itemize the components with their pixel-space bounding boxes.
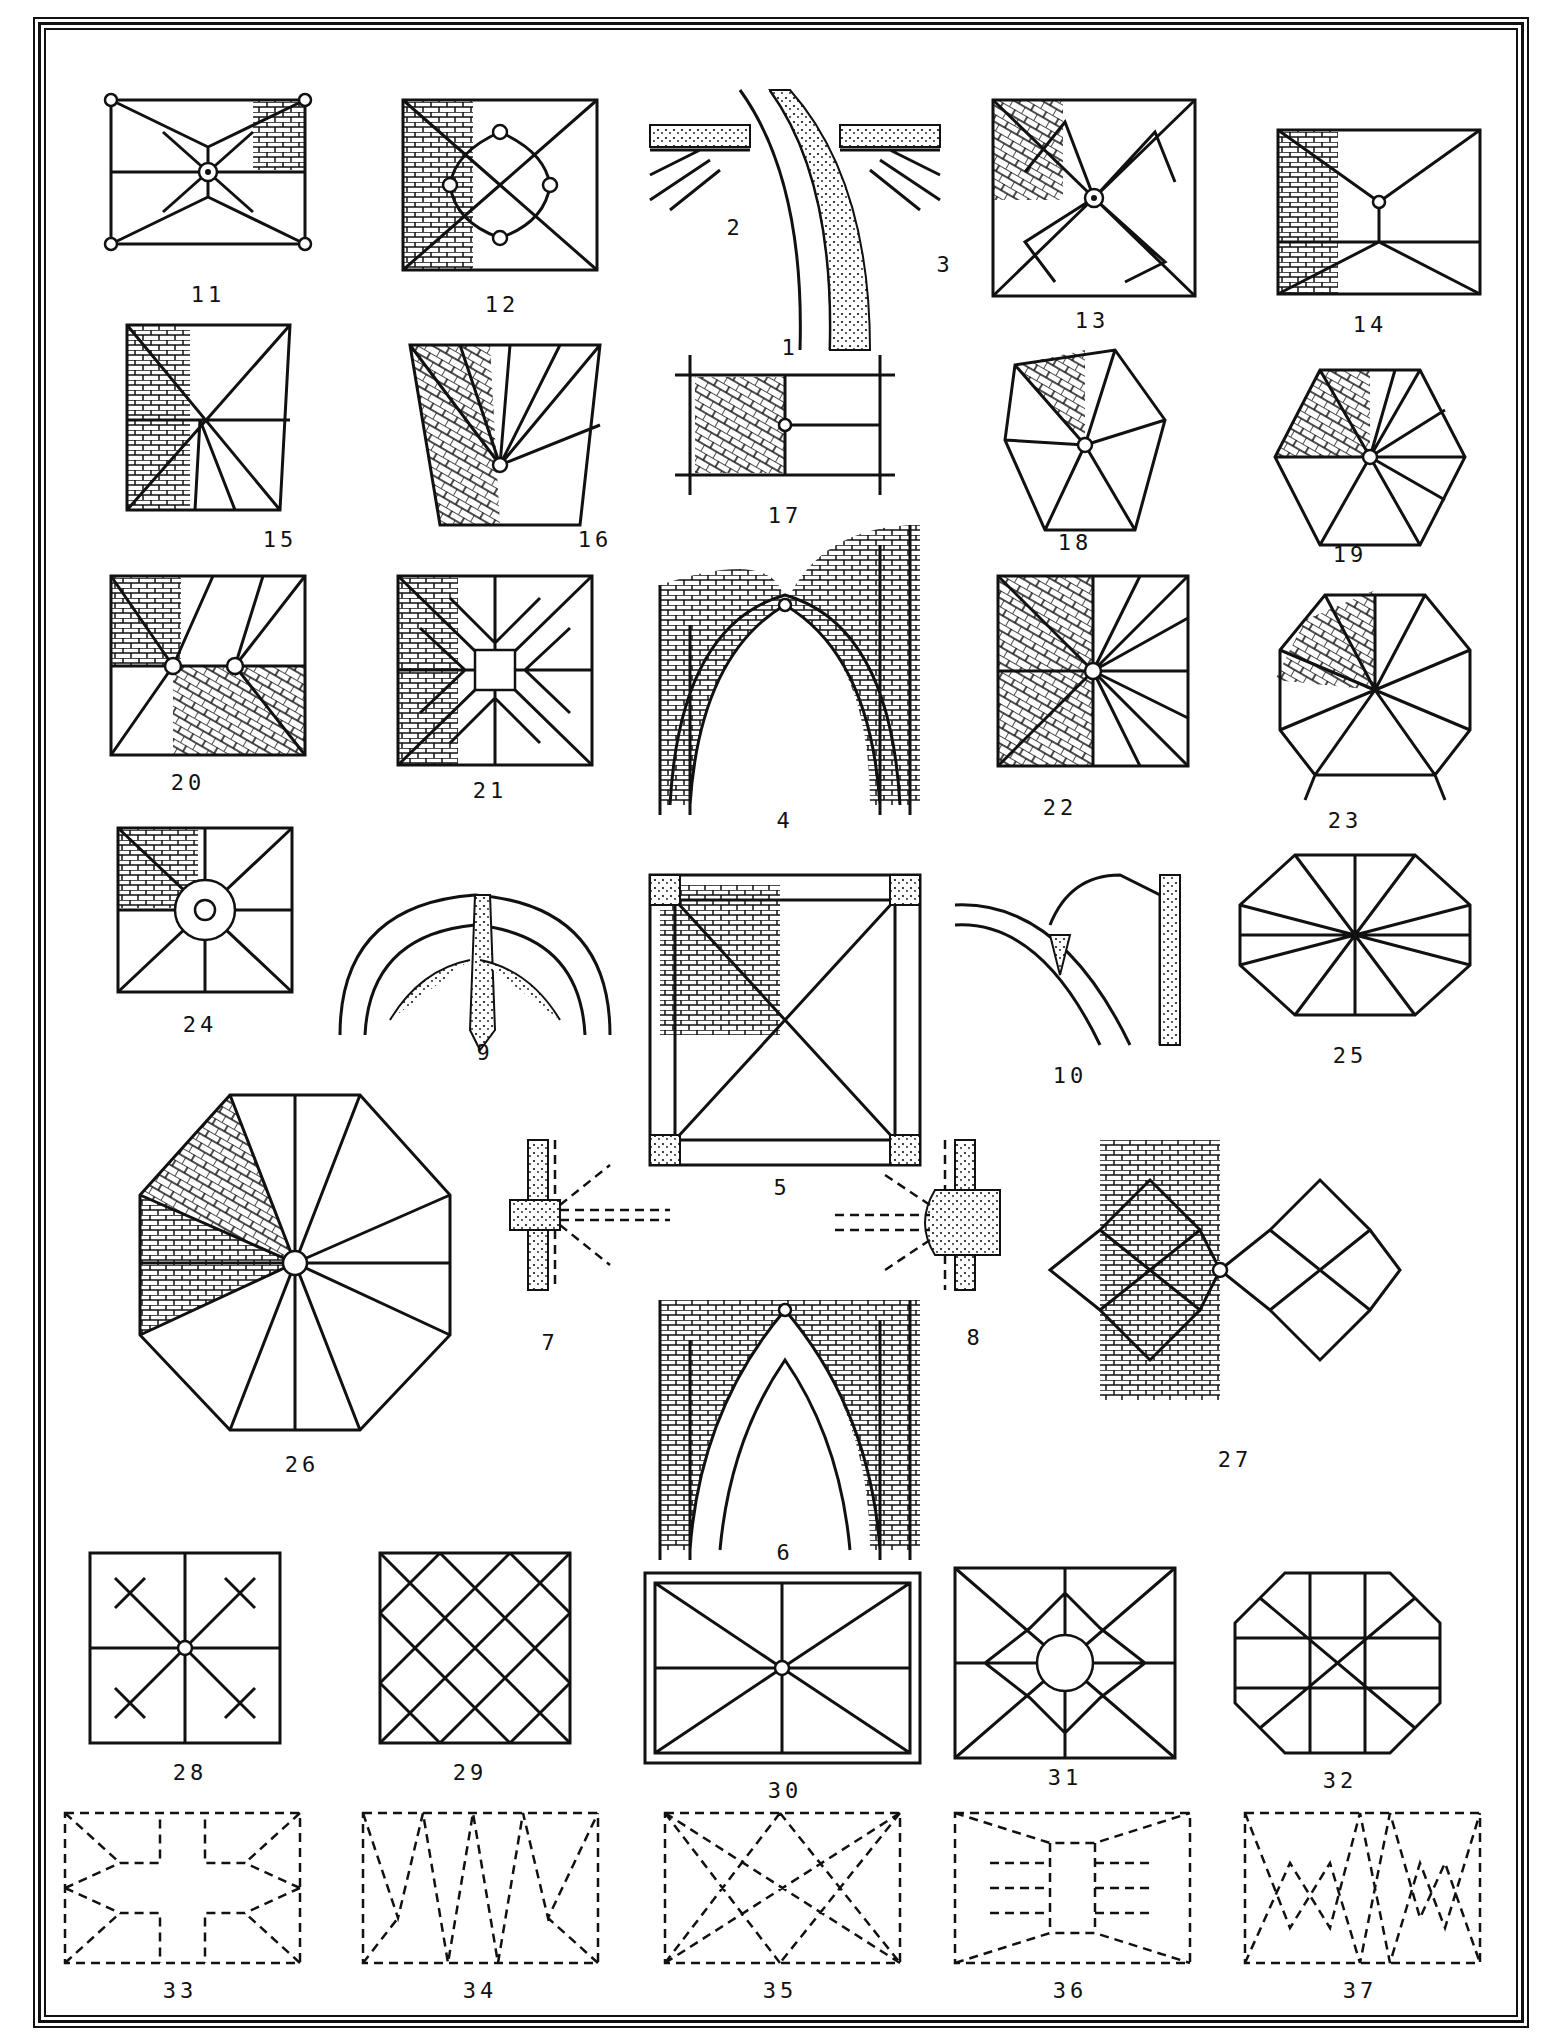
figure-24 <box>110 820 300 1000</box>
figure-label: 5 <box>742 1175 822 1200</box>
figure-5 <box>645 870 925 1170</box>
figure-label: 9 <box>445 1040 525 1065</box>
figure-label: 13 <box>1052 308 1132 333</box>
figure-label: 37 <box>1320 1978 1400 2003</box>
figure-label: 12 <box>462 292 542 317</box>
figure-label: 11 <box>168 282 248 307</box>
figure-label: 24 <box>160 1012 240 1037</box>
figure-label: 31 <box>1025 1765 1105 1790</box>
figure-label: 3 <box>905 252 985 277</box>
figure-label: 27 <box>1195 1447 1275 1472</box>
figure-12 <box>395 92 605 278</box>
figure-8 <box>835 1135 1015 1295</box>
figure-4 <box>640 505 930 825</box>
figure-label: 14 <box>1330 312 1410 337</box>
figure-label: 22 <box>1020 795 1100 820</box>
figure-27 <box>1030 1120 1410 1420</box>
figure-25 <box>1235 850 1475 1020</box>
figure-label: 26 <box>262 1452 342 1477</box>
figure-label: 32 <box>1300 1768 1380 1793</box>
figure-26 <box>130 1085 460 1440</box>
figure-21 <box>390 568 600 773</box>
vault-plan-icon <box>103 92 313 252</box>
figure-29 <box>375 1548 575 1748</box>
figure-label: 10 <box>1030 1063 1110 1088</box>
figure-label: 28 <box>150 1760 230 1785</box>
figure-13 <box>985 92 1203 304</box>
figure-17 <box>675 355 895 495</box>
figure-label: 19 <box>1310 542 1390 567</box>
figure-37 <box>1240 1808 1485 1968</box>
figure-30 <box>640 1568 925 1768</box>
figure-19 <box>1270 360 1470 555</box>
figure-label: 18 <box>1035 530 1115 555</box>
figure-15 <box>115 310 305 520</box>
figure-label: 33 <box>140 1978 220 2003</box>
figure-label: 29 <box>430 1760 510 1785</box>
figure-label: 34 <box>440 1978 520 2003</box>
figure-31 <box>950 1563 1180 1763</box>
figure-6 <box>640 1280 930 1570</box>
figure-label: 6 <box>745 1540 825 1565</box>
figure-18 <box>995 340 1175 535</box>
figure-label: 7 <box>510 1330 590 1355</box>
figure-32 <box>1230 1568 1445 1758</box>
figure-label: 16 <box>555 527 635 552</box>
figure-34 <box>358 1808 603 1968</box>
figure-36 <box>950 1808 1195 1968</box>
figure-label: 4 <box>745 808 825 833</box>
figure-22 <box>990 568 1195 773</box>
figure-35 <box>660 1808 905 1968</box>
figure-label: 30 <box>745 1778 825 1803</box>
figure-33 <box>60 1808 305 1968</box>
figure-label: 21 <box>450 778 530 803</box>
figure-label: 8 <box>935 1325 1015 1350</box>
figure-1-2-3 <box>640 80 950 370</box>
figure-28 <box>85 1548 285 1748</box>
figure-label: 20 <box>148 770 228 795</box>
figure-7 <box>500 1135 690 1295</box>
figure-label: 35 <box>740 1978 820 2003</box>
figure-20 <box>103 568 313 763</box>
figure-label: 25 <box>1310 1043 1390 1068</box>
figure-14 <box>1270 122 1488 302</box>
figure-label: 2 <box>695 215 775 240</box>
figure-23 <box>1265 580 1485 800</box>
figure-label: 15 <box>240 527 320 552</box>
figure-9 <box>330 880 620 1050</box>
figure-label: 36 <box>1030 1978 1110 2003</box>
figure-10 <box>950 865 1190 1050</box>
figure-16 <box>400 335 610 535</box>
figure-label: 23 <box>1305 808 1385 833</box>
figure-11 <box>103 92 313 252</box>
